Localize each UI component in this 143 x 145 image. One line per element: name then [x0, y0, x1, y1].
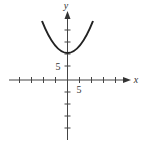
x-tick-label-5: 5: [77, 84, 82, 95]
y-tick-label-5: 5: [56, 61, 61, 72]
x-axis-label: x: [133, 74, 139, 85]
y-axis-arrow-icon: [65, 11, 71, 19]
x-axis-arrow-icon: [123, 77, 131, 83]
y-axis-label: y: [63, 0, 69, 11]
parabola-graph: y x 5 5: [0, 0, 143, 145]
